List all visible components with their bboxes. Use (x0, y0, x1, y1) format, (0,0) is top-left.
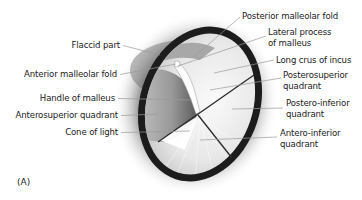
label-posterior-malleolar-fold: Posterior malleolar fold (242, 11, 338, 22)
label-handle-of-malleus: Handle of malleus (40, 93, 115, 104)
label-line: Posterosuperior (283, 70, 348, 81)
label-antero-inferior-quadrant: Antero-inferiorquadrant (280, 128, 340, 149)
label-posterosuperior-quadrant: Posterosuperiorquadrant (283, 70, 348, 91)
label-anterosuperior-quadrant: Anterosuperior quadrant (16, 110, 118, 121)
label-line: Lateral process (268, 27, 331, 38)
label-anterior-malleolar-fold: Anterior malleolar fold (24, 69, 117, 80)
label-line: of malleus (268, 38, 331, 49)
label-line: Antero-inferior (280, 128, 340, 139)
label-line: quadrant (280, 139, 340, 150)
label-postero-inferior-quadrant: Postero-inferiorquadrant (286, 98, 350, 119)
panel-label: (A) (17, 177, 30, 187)
label-line: quadrant (283, 81, 348, 92)
label-line: Postero-inferior (286, 98, 350, 109)
label-flaccid-part: Flaccid part (72, 40, 120, 51)
label-long-crus-of-incus: Long crus of incus (276, 55, 351, 66)
label-line: Posterior malleolar fold (242, 11, 338, 22)
label-line: Long crus of incus (276, 55, 351, 66)
label-lateral-process-of-malleus: Lateral processof malleus (268, 27, 331, 48)
label-cone-of-light: Cone of light (65, 127, 118, 138)
label-line: quadrant (286, 109, 350, 120)
